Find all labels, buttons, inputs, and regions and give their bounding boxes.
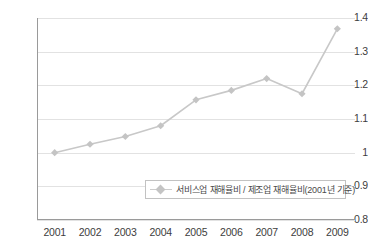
- legend-diamond-glyph: [156, 185, 166, 195]
- data-series-layer: [0, 0, 368, 249]
- x-axis-tick-label: 2005: [176, 226, 216, 238]
- series-line: [55, 29, 338, 153]
- x-axis-tick-label: 2008: [282, 226, 322, 238]
- x-axis-tick-label: 2003: [105, 226, 145, 238]
- data-point-marker: [122, 133, 129, 140]
- diamond-marker-icon: [146, 181, 176, 198]
- line-chart: 1.41.31.21.110.90.8 20012002200320042005…: [0, 0, 368, 249]
- data-point-marker: [334, 25, 341, 32]
- series-markers: [51, 25, 341, 156]
- data-point-marker: [263, 75, 270, 82]
- x-axis-tick-label: 2002: [70, 226, 110, 238]
- data-point-marker: [51, 149, 58, 156]
- x-axis-tick-label: 2009: [317, 226, 357, 238]
- x-axis-tick-label: 2001: [35, 226, 75, 238]
- x-axis-tick-label: 2007: [247, 226, 287, 238]
- data-point-marker: [228, 87, 235, 94]
- x-axis-tick-label: 2006: [211, 226, 251, 238]
- x-axis-tick-label: 2004: [141, 226, 181, 238]
- data-point-marker: [298, 90, 305, 97]
- chart-legend: 서비스업 재해율비 / 제조업 재해율비(2001년 기준): [145, 180, 346, 199]
- data-point-marker: [86, 141, 93, 148]
- legend-entry-label: 서비스업 재해율비 / 제조업 재해율비(2001년 기준): [176, 183, 355, 196]
